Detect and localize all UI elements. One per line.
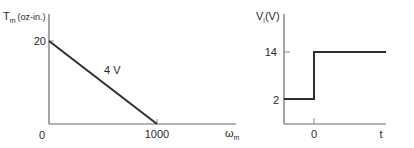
input-voltage-step-chart: Vi(V) 14 2 0 t xyxy=(256,10,386,140)
right-ytick-label-2: 2 xyxy=(273,94,279,106)
right-x-axis-label: t xyxy=(379,128,382,140)
left-ytick-label-20: 20 xyxy=(34,35,46,47)
torque-speed-line xyxy=(49,41,157,124)
line-annotation-4v: 4 V xyxy=(104,64,121,76)
left-x-axis-label: ωm xyxy=(225,127,240,141)
torque-speed-chart: Tm(oz-in.) 20 0 1000 ωm 4 V xyxy=(3,10,240,141)
voltage-step-line xyxy=(284,52,386,99)
right-ytick-label-14: 14 xyxy=(265,46,277,58)
left-y-axis-label: Tm(oz-in.) xyxy=(3,10,46,24)
figure: Tm(oz-in.) 20 0 1000 ωm 4 V Vi(V) 14 2 0… xyxy=(0,0,414,148)
right-y-axis-label: Vi(V) xyxy=(256,10,280,24)
left-xtick-label-0: 0 xyxy=(39,129,45,141)
right-xtick-label-0: 0 xyxy=(311,128,317,140)
left-xtick-label-1000: 1000 xyxy=(145,128,169,140)
